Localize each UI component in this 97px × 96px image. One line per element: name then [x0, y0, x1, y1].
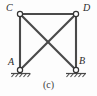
- joint-label-B: B: [79, 56, 85, 66]
- figure-caption: (c): [0, 79, 97, 90]
- joint-label-D: D: [83, 3, 90, 13]
- joint-D: [73, 11, 78, 16]
- joint-C: [17, 11, 22, 16]
- truss-figure: C D A B (c): [0, 0, 97, 96]
- joint-B: [73, 67, 78, 72]
- joint-label-C: C: [6, 3, 13, 13]
- support-ground-A: [11, 74, 31, 78]
- joint-A: [17, 67, 22, 72]
- truss-members: [20, 14, 76, 70]
- support-ground-B: [66, 74, 86, 78]
- joint-label-A: A: [8, 57, 14, 67]
